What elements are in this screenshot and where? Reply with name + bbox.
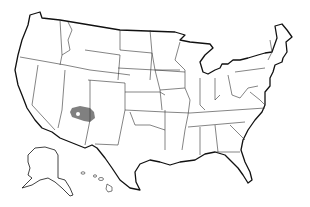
map-svg: [0, 0, 310, 207]
hawaii-islands: [81, 172, 112, 192]
alaska-outline: [22, 147, 73, 196]
highlight-hole: [76, 112, 80, 116]
highlighted-region: [70, 106, 95, 122]
us-map: [0, 0, 310, 207]
state-borders: [20, 20, 272, 155]
contiguous-us-outline: [15, 12, 292, 190]
